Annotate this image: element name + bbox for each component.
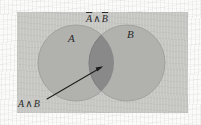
set-a-label: A (68, 33, 75, 44)
intersection-label: A∧B (18, 99, 40, 109)
b-complement-term: B (102, 13, 108, 24)
figure-page: A B A∧B A∧B (0, 0, 201, 125)
conjunction-operator-bottom: ∧ (24, 98, 34, 109)
conjunction-operator-top: ∧ (92, 13, 102, 24)
b-term: B (34, 98, 40, 109)
complement-intersection-label: A∧B (86, 14, 108, 24)
set-b-label: B (127, 29, 134, 40)
